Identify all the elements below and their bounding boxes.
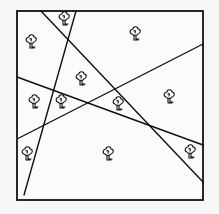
field-square <box>17 11 203 200</box>
field-diagram <box>0 0 219 214</box>
